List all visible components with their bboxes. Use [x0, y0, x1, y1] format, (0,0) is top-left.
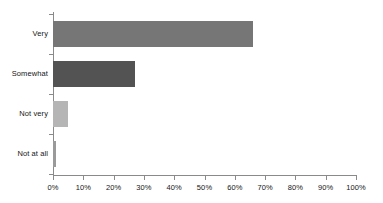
bar-chart: Very Somewhat Not very Not at all 0%10%2…	[0, 0, 383, 203]
y-axis-label-1: Somewhat	[2, 69, 48, 78]
x-axis-label-1: 10%	[68, 183, 98, 192]
x-axis-tick-5	[205, 176, 206, 180]
x-axis-tick-0	[53, 176, 54, 180]
x-axis-label-5: 50%	[190, 183, 220, 192]
x-axis-tick-10	[356, 176, 357, 180]
y-axis-tick-4	[49, 174, 54, 175]
x-axis-tick-2	[114, 176, 115, 180]
x-axis-tick-9	[326, 176, 327, 180]
x-axis-label-0: 0%	[38, 183, 68, 192]
x-axis-tick-1	[83, 176, 84, 180]
x-axis-label-3: 30%	[129, 183, 159, 192]
x-axis-label-2: 20%	[99, 183, 129, 192]
y-axis-label-0: Very	[2, 29, 48, 38]
bar-not-very[interactable]	[53, 101, 68, 127]
x-axis-label-6: 60%	[220, 183, 250, 192]
bar-very[interactable]	[53, 21, 253, 47]
x-axis-label-4: 40%	[159, 183, 189, 192]
x-axis-tick-7	[265, 176, 266, 180]
x-axis-tick-4	[174, 176, 175, 180]
y-axis-label-3: Not at all	[2, 149, 48, 158]
x-axis-label-7: 70%	[250, 183, 280, 192]
bar-row-not-at-all	[53, 134, 356, 174]
bar-row-not-very	[53, 94, 356, 134]
plot-area	[53, 14, 356, 174]
x-axis-tick-6	[235, 176, 236, 180]
bar-row-somewhat	[53, 54, 356, 94]
x-axis-label-8: 80%	[280, 183, 310, 192]
bar-somewhat[interactable]	[53, 61, 135, 87]
x-axis-tick-8	[295, 176, 296, 180]
x-axis-tick-3	[144, 176, 145, 180]
bar-not-at-all[interactable]	[53, 141, 56, 167]
x-axis-label-10: 100%	[341, 183, 371, 192]
y-axis-label-2: Not very	[2, 109, 48, 118]
x-axis-label-9: 90%	[311, 183, 341, 192]
y-axis-labels: Very Somewhat Not very Not at all	[0, 14, 48, 174]
bar-row-very	[53, 14, 356, 54]
